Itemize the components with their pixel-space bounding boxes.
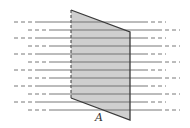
flux-diagram xyxy=(0,0,190,128)
field-lines-behind xyxy=(14,22,71,110)
surface-label: A xyxy=(95,111,103,124)
surface-area-a xyxy=(71,10,130,120)
